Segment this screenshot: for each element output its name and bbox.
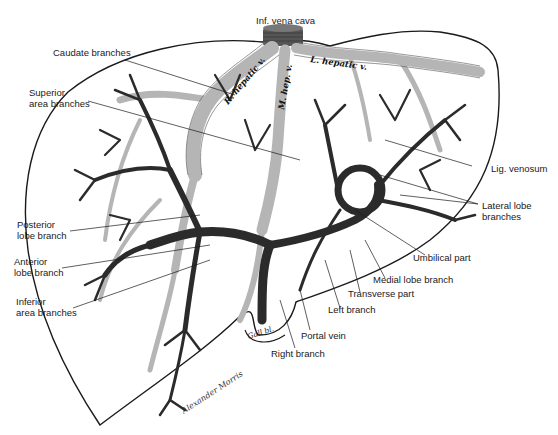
label-right-branch: Right branch bbox=[271, 348, 325, 359]
label-medial-lobe-branch: Medial lobe branch bbox=[373, 274, 453, 285]
label-anterior-line2: lobe branch bbox=[14, 267, 64, 278]
label-superior-line2: area branches bbox=[29, 98, 90, 109]
label-anterior-lobe-branch: Anterior lobe branch bbox=[14, 256, 64, 278]
label-umbilical-part: Umbilical part bbox=[413, 252, 471, 263]
label-inferior-line1: Inferior bbox=[16, 296, 77, 307]
label-inf-vena-cava: Inf. vena cava bbox=[256, 15, 315, 26]
label-transverse-part: Transverse part bbox=[348, 288, 414, 299]
label-anterior-line1: Anterior bbox=[14, 256, 64, 267]
label-posterior-line2: lobe branch bbox=[17, 230, 67, 241]
label-lateral-line2: branches bbox=[482, 211, 532, 222]
label-superior-line1: Superior bbox=[29, 87, 90, 98]
label-caudate-branches: Caudate branches bbox=[53, 47, 131, 58]
label-inferior-area-branches: Inferior area branches bbox=[16, 296, 77, 318]
liver-illustration: R. hepatic v. M. hep. v. L. hepatic v. bbox=[0, 0, 558, 435]
label-lig-venosum: Lig. venosum bbox=[491, 163, 548, 174]
label-left-branch: Left branch bbox=[328, 304, 376, 315]
label-lateral-lobe-branches: Lateral lobe branches bbox=[482, 200, 532, 222]
label-posterior-line1: Posterior bbox=[17, 219, 67, 230]
liver-vasculature-figure: R. hepatic v. M. hep. v. L. hepatic v. I… bbox=[0, 0, 558, 435]
label-superior-area-branches: Superior area branches bbox=[29, 87, 90, 109]
label-lateral-line1: Lateral lobe bbox=[482, 200, 532, 211]
label-inferior-line2: area branches bbox=[16, 307, 77, 318]
label-portal-vein: Portal vein bbox=[301, 330, 346, 341]
label-posterior-lobe-branch: Posterior lobe branch bbox=[17, 219, 67, 241]
